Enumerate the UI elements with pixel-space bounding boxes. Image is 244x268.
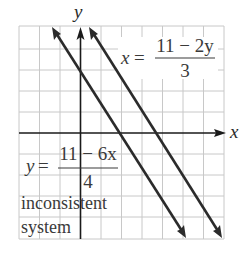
x-axis-label: x <box>229 121 239 142</box>
eq2-numerator: 11 − 2y <box>156 35 214 56</box>
y-axis-label: y <box>72 1 83 22</box>
eq1-denominator: 4 <box>83 171 93 192</box>
eq1-equals: = <box>38 155 49 176</box>
annotation-system: system <box>21 217 71 237</box>
graph-of-inconsistent-system: y x x = 11 − 2y 3 y = 11 − 6x 4 inconsis… <box>0 0 244 268</box>
eq2-lhs-var: x <box>120 47 130 68</box>
equation-1-label: y = 11 − 6x 4 <box>24 143 118 192</box>
eq2-equals: = <box>134 47 145 68</box>
eq1-lhs-var: y <box>24 155 35 176</box>
eq1-numerator: 11 − 6x <box>59 143 117 164</box>
eq2-denominator: 3 <box>180 60 190 81</box>
annotation-inconsistent: inconsistent <box>21 193 107 213</box>
